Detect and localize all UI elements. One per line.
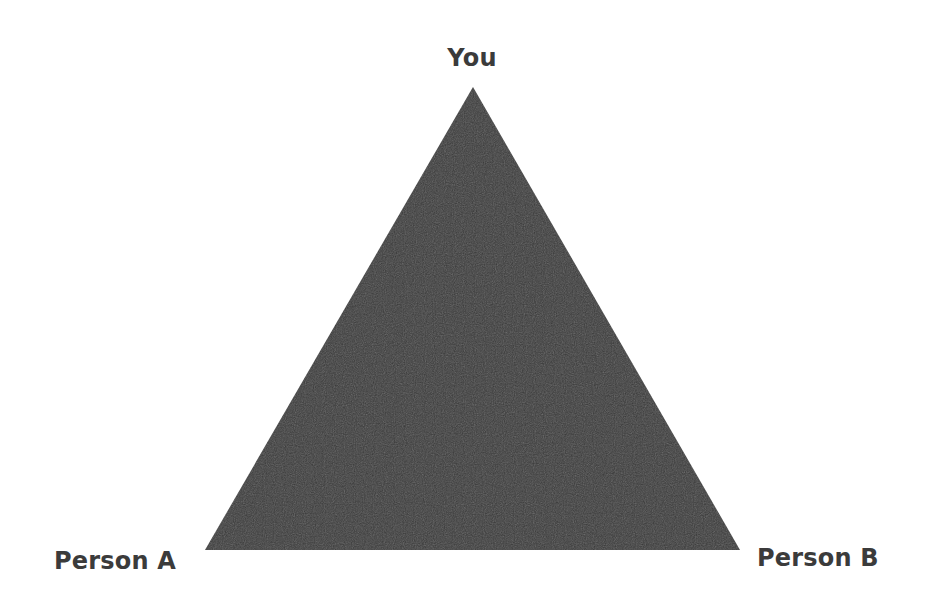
triangle-fill: [205, 87, 740, 550]
triangle-shape: [0, 0, 934, 607]
relationship-triangle-diagram: You Person A Person B: [0, 0, 934, 607]
vertex-label-person-b: Person B: [757, 546, 879, 570]
vertex-label-you: You: [0, 46, 934, 70]
vertex-label-person-a: Person A: [54, 549, 176, 573]
